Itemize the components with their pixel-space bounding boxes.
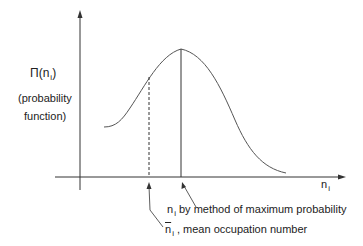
y-axis-label-line2: (probability <box>18 92 72 105</box>
y-axis-arrowhead <box>78 10 83 18</box>
mean-pointer-line-2 <box>149 186 150 210</box>
mean-pointer-line <box>150 210 163 227</box>
y-axis-label-line3: function) <box>24 110 66 123</box>
annotation-mean-text: , mean occupation number <box>174 223 307 235</box>
annotation-mean-symbol: n <box>165 223 171 235</box>
annotation-max-text: by method of maximum probability <box>176 203 347 215</box>
y-axis-symbol-close: ) <box>52 66 56 80</box>
y-axis-symbol: Π(ni) <box>30 67 56 84</box>
probability-curve <box>104 49 286 173</box>
annotation-max-probability: ni by method of maximum probability <box>167 203 346 220</box>
x-axis-symbol: n <box>321 178 327 190</box>
annotation-mean-occupation: ni , mean occupation number <box>165 223 307 240</box>
mean-pointer-arrowhead <box>147 182 152 189</box>
x-axis-arrowhead <box>338 175 346 180</box>
x-axis-subscript: i <box>328 184 330 193</box>
annotation-max-symbol: n <box>167 203 173 215</box>
x-axis-label: ni <box>321 178 330 195</box>
y-axis-symbol-text: Π(n <box>30 66 49 80</box>
